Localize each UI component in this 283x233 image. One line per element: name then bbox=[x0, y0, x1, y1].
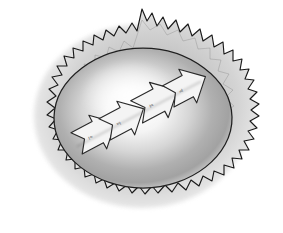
illustration-canvas: ≀≈ ≈≀ ≀≈ ≈≀ bbox=[0, 0, 283, 233]
illustration-svg: ≀≈ ≈≀ ≀≈ ≈≀ bbox=[0, 0, 283, 233]
